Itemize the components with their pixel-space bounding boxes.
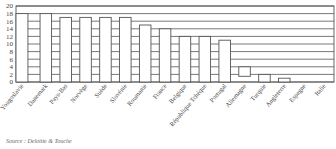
bar — [80, 17, 92, 82]
x-tick-label: Allemagne — [224, 82, 248, 108]
bar — [16, 14, 28, 82]
x-tick-label: Espagne — [287, 82, 307, 103]
y-tick-label: 14 — [6, 25, 14, 33]
bar — [199, 36, 211, 82]
bar — [40, 14, 52, 82]
x-tick-label: France — [151, 82, 168, 100]
y-tick-label: 2 — [10, 71, 14, 79]
y-tick-label: 4 — [10, 63, 14, 71]
x-tick-label: Turquie — [249, 82, 268, 102]
x-tick-label: Yougoslavie — [0, 82, 25, 111]
x-tick-label: Suède — [93, 82, 109, 99]
bar — [239, 67, 251, 77]
x-tick-label: Roumanie — [125, 82, 148, 107]
y-tick-label: 20 — [6, 2, 14, 10]
y-tick-label: 12 — [6, 33, 14, 41]
bar — [60, 17, 72, 82]
x-tick-label: Italie — [313, 82, 327, 97]
x-tick-label: Pays-Bas — [48, 82, 69, 105]
bar — [159, 29, 171, 82]
y-tick-label: 6 — [10, 56, 14, 64]
x-tick-label: Norvège — [69, 82, 89, 104]
bar — [179, 36, 191, 82]
x-tick-label: République Tchèque — [168, 82, 208, 127]
bar — [279, 78, 291, 82]
source-note: Source : Deloitte & Touche — [6, 138, 72, 144]
bar — [100, 17, 112, 82]
bar — [139, 25, 151, 82]
x-tick-label: Angleterre — [264, 82, 287, 108]
bar — [120, 17, 132, 82]
bar-chart: 02468101214161820YougoslavieDanemarkPays… — [0, 0, 336, 149]
bar — [219, 40, 231, 82]
y-tick-label: 16 — [6, 18, 14, 26]
x-tick-label: Slovénie — [108, 82, 128, 104]
y-tick-label: 10 — [6, 40, 14, 48]
y-tick-label: 18 — [6, 10, 14, 18]
bar — [259, 74, 271, 82]
x-tick-label: Portugal — [208, 82, 228, 104]
x-tick-label: Danemark — [26, 82, 49, 108]
y-tick-label: 0 — [10, 78, 14, 86]
x-tick-label: Belgique — [167, 82, 188, 105]
y-tick-label: 8 — [10, 48, 14, 56]
